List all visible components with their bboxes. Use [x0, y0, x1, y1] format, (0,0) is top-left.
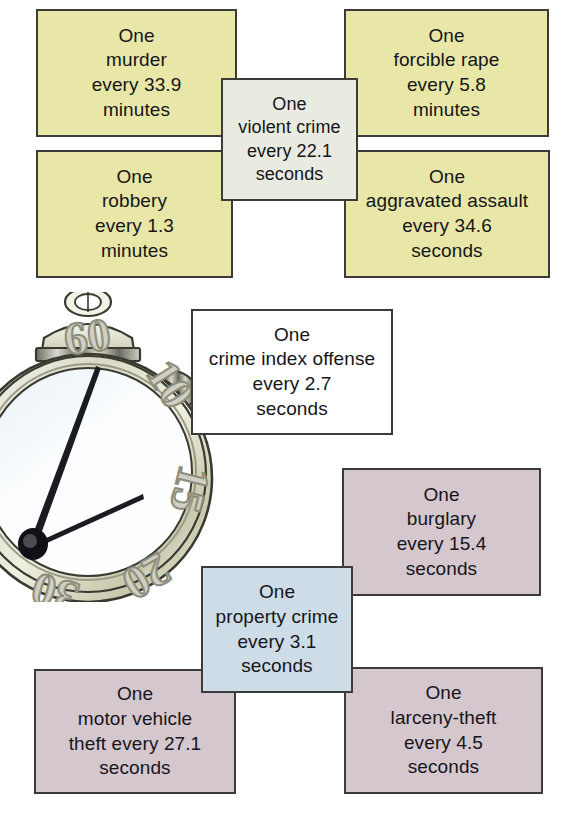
stopwatch-hands-icon — [18, 366, 144, 560]
stopwatch-crown-icon — [36, 324, 140, 361]
fact-text-violent-crime-hub: One violent crime every 22.1 seconds — [232, 93, 346, 187]
fact-box-forcible-rape: One forcible rape every 5.8 minutes — [344, 9, 549, 137]
fact-text-burglary: One burglary every 15.4 seconds — [391, 483, 493, 582]
svg-text:20: 20 — [114, 543, 179, 602]
fact-text-forcible-rape: One forcible rape every 5.8 minutes — [388, 24, 506, 123]
fact-box-murder: One murder every 33.9 minutes — [36, 9, 237, 137]
fact-text-murder: One murder every 33.9 minutes — [86, 24, 188, 123]
fact-text-motor-vehicle-theft: One motor vehicle theft every 27.1 secon… — [63, 682, 208, 781]
svg-text:15: 15 — [160, 461, 221, 518]
svg-text:30: 30 — [26, 563, 84, 602]
fact-box-larceny-theft: One larceny-theft every 4.5 seconds — [344, 667, 543, 794]
fact-text-larceny-theft: One larceny-theft every 4.5 seconds — [385, 681, 503, 780]
stopwatch-bow-icon — [65, 292, 111, 316]
fact-box-burglary: One burglary every 15.4 seconds — [342, 468, 541, 596]
svg-text:60: 60 — [61, 308, 114, 365]
fact-box-crime-index-offense: One crime index offense every 2.7 second… — [191, 309, 393, 435]
fact-box-violent-crime-hub: One violent crime every 22.1 seconds — [221, 78, 358, 201]
fact-text-robbery: One robbery every 1.3 minutes — [89, 165, 180, 264]
fact-text-aggravated-assault: One aggravated assault every 34.6 second… — [360, 165, 534, 264]
fact-box-property-crime-hub: One property crime every 3.1 seconds — [201, 566, 353, 693]
fact-text-crime-index-offense: One crime index offense every 2.7 second… — [203, 323, 381, 422]
crime-clock-figure: 60 10 15 20 30 One murder every 33.9 min… — [0, 0, 573, 824]
fact-box-robbery: One robbery every 1.3 minutes — [36, 150, 233, 278]
fact-box-aggravated-assault: One aggravated assault every 34.6 second… — [344, 150, 550, 278]
fact-text-property-crime-hub: One property crime every 3.1 seconds — [210, 580, 345, 679]
